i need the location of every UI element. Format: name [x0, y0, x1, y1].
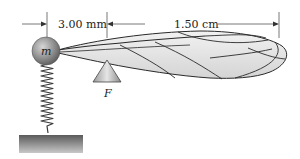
spring: [41, 60, 53, 133]
arrow-right-icon: [273, 22, 279, 27]
fulcrum-label: F: [103, 87, 112, 100]
wing: [58, 31, 287, 79]
ground-block: [19, 135, 83, 153]
mass-ball: m: [32, 37, 60, 65]
arrow-left-icon: [107, 22, 113, 27]
lever-diagram: 3.00 mm 1.50 cm F m: [0, 0, 300, 159]
short-arm-label: 3.00 mm: [58, 18, 107, 31]
arrow-right-icon: [41, 22, 47, 27]
mass-label: m: [41, 45, 51, 58]
long-arm-label: 1.50 cm: [174, 18, 219, 31]
fulcrum: F: [93, 60, 121, 100]
dimension-short-arm: 3.00 mm: [22, 12, 107, 42]
